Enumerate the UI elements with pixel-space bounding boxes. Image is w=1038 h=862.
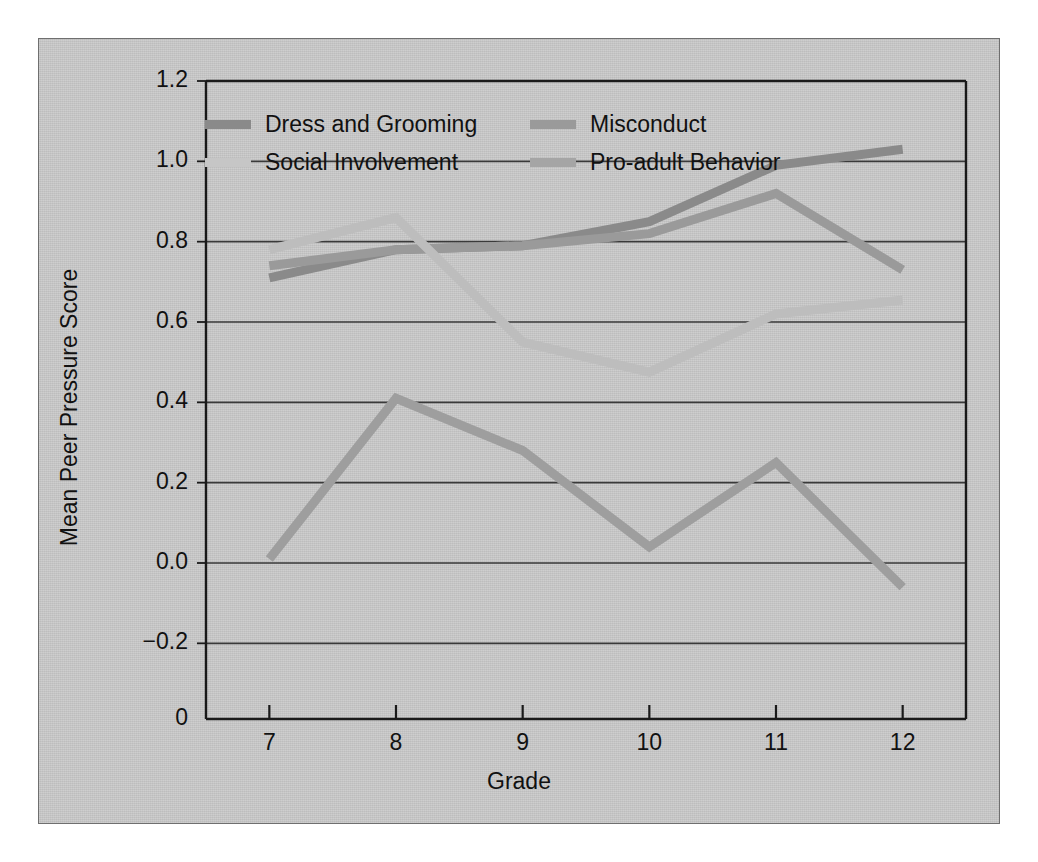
- x-axis-title: Grade: [0, 768, 1038, 795]
- legend-item-dress-and-grooming: Dress and Grooming: [205, 113, 477, 136]
- figure-panel: 1.21.00.80.60.40.20.0−0.20 789101112 Mea…: [38, 38, 1000, 824]
- legend-label: Pro-adult Behavior: [590, 151, 781, 174]
- y-axis-tick-label: 1.0: [98, 146, 188, 173]
- y-axis-tick-label: 0: [98, 704, 188, 731]
- legend-swatch-icon: [205, 158, 251, 167]
- x-axis-tick-label: 9: [493, 729, 553, 756]
- y-axis-tick-label: 0.2: [98, 468, 188, 495]
- x-axis-tick-label: 11: [746, 729, 806, 756]
- legend-item-pro-adult-behavior: Pro-adult Behavior: [530, 151, 781, 174]
- y-axis-tick-label: 0.4: [98, 387, 188, 414]
- legend-item-social-involvement: Social Involvement: [205, 151, 458, 174]
- x-axis-tick-label: 7: [239, 729, 299, 756]
- y-axis-tick-label: −0.2: [98, 628, 188, 655]
- legend-swatch-icon: [530, 120, 576, 129]
- legend-item-misconduct: Misconduct: [530, 113, 706, 136]
- x-axis-tick-label: 12: [873, 729, 933, 756]
- data-series-group: [269, 149, 902, 587]
- series-line-pro-adult-behavior: [269, 398, 902, 587]
- y-axis-tick-label: 1.2: [98, 66, 188, 93]
- y-axis-tick-label: 0.0: [98, 548, 188, 575]
- legend-swatch-icon: [205, 120, 251, 129]
- legend-swatch-icon: [530, 158, 576, 167]
- y-axis-title: Mean Peer Pressure Score: [56, 228, 83, 588]
- legend-label: Misconduct: [590, 113, 706, 136]
- y-axis-tick-label: 0.8: [98, 227, 188, 254]
- x-axis-tick-label: 8: [366, 729, 426, 756]
- legend-label: Social Involvement: [265, 151, 458, 174]
- x-axis-tick-label: 10: [619, 729, 679, 756]
- chart-legend: Dress and Grooming Social Involvement Mi…: [205, 113, 765, 189]
- y-axis-tick-label: 0.6: [98, 307, 188, 334]
- legend-label: Dress and Grooming: [265, 113, 477, 136]
